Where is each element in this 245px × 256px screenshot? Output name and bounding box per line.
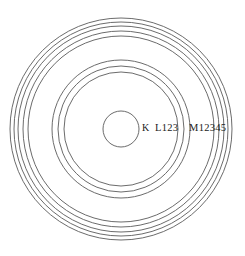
shell-diagram-canvas: K L123 M12345 (0, 0, 245, 256)
bohr-shell-figure: K L123 M12345 (0, 0, 245, 256)
shell-label-l: L123 (155, 122, 178, 133)
shell-ring-k-1 (103, 111, 139, 147)
shell-label-m: M12345 (189, 122, 226, 133)
shell-label-k: K (142, 122, 150, 133)
shell-ring-m-1 (28, 36, 214, 222)
